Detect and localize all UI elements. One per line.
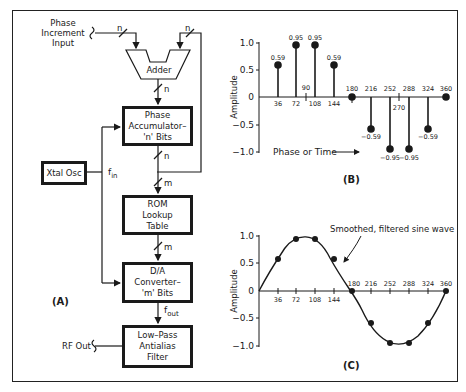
bus-width-n: n xyxy=(164,84,169,94)
ytick: 0 xyxy=(228,286,254,296)
phase-increment-label: Phase Increment Input xyxy=(38,18,88,48)
xtick: 360 xyxy=(434,281,458,288)
value-label: 0.59 xyxy=(320,55,348,62)
panel-a-label: (A) xyxy=(52,296,69,307)
ytick: 1.0 xyxy=(228,38,254,48)
ytick: 1.0 xyxy=(228,231,254,241)
block-line: Filter xyxy=(138,352,178,363)
fout-subscript: out xyxy=(167,310,178,318)
panel-c-label: (C) xyxy=(343,360,359,371)
xtal-osc-block: Xtal Osc xyxy=(41,161,87,185)
xtick: 144 xyxy=(322,101,346,108)
value-label: −0.59 xyxy=(414,134,442,141)
bus-width-n: n xyxy=(185,23,190,33)
block-line: D/A xyxy=(134,266,181,277)
value-label: 0.59 xyxy=(264,55,292,62)
chart-c-annotation: Smoothed, filtered sine wave xyxy=(330,224,454,234)
chart-b-xlabel: Phase or Time xyxy=(273,147,337,157)
bus-width-n: n xyxy=(164,151,169,161)
fin-label: fin xyxy=(108,167,118,181)
label-line: Increment xyxy=(38,28,88,38)
ytick: 0.5 xyxy=(228,65,254,75)
diagram-wires xyxy=(0,0,466,392)
panel-b-label: (B) xyxy=(343,174,360,185)
fin-subscript: in xyxy=(111,172,117,180)
fout-label: fout xyxy=(164,305,179,319)
value-label: −0.59 xyxy=(357,134,385,141)
block-line: Phase xyxy=(129,110,187,121)
dac-block: D/A Converter– 'm' Bits xyxy=(122,262,193,303)
ytick: −0.5 xyxy=(228,120,254,130)
xtick: 144 xyxy=(322,297,346,304)
rom-lookup-block: ROM Lookup Table xyxy=(122,195,193,235)
block-line: Converter– xyxy=(134,277,181,288)
bus-width-m: m xyxy=(164,178,172,188)
xtick: 360 xyxy=(434,86,458,93)
block-line: 'n' Bits xyxy=(129,132,187,143)
ytick: −1.0 xyxy=(228,147,254,157)
ytick: −1.0 xyxy=(228,341,254,351)
block-line: ROM xyxy=(142,199,172,210)
block-line: Antialias xyxy=(138,341,178,352)
rf-out-label: RF Out xyxy=(62,341,91,351)
label-line: Phase xyxy=(38,18,88,28)
label-line: Input xyxy=(38,38,88,48)
phase-accumulator-block: Phase Accumulator– 'n' Bits xyxy=(122,106,193,146)
block-line: Accumulator– xyxy=(129,121,187,132)
bus-width-m: m xyxy=(164,242,172,252)
value-label: −0.95 xyxy=(395,155,423,162)
block-line: 'm' Bits xyxy=(134,288,181,299)
adder-label: Adder xyxy=(146,65,172,75)
lowpass-filter-block: Low–Pass Antialias Filter xyxy=(122,325,193,368)
bus-width-n: n xyxy=(117,23,122,33)
block-line: Lookup xyxy=(142,210,172,221)
ytick: 0.5 xyxy=(228,258,254,268)
block-line: Low–Pass xyxy=(138,330,178,341)
xtick: 270 xyxy=(387,105,411,112)
ytick: −0.5 xyxy=(228,313,254,323)
block-line: Table xyxy=(142,221,172,232)
ytick: 0 xyxy=(228,92,254,102)
xtick: 90 xyxy=(294,85,318,92)
block-line: Xtal Osc xyxy=(46,168,81,179)
value-label: 0.95 xyxy=(301,35,329,42)
